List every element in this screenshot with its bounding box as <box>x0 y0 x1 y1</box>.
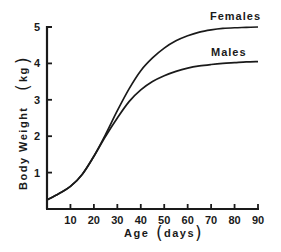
body-weight-chart: 102030405060708090 12345 Females Males A… <box>0 0 281 252</box>
males-label: Males <box>211 46 247 58</box>
x-tick-label: 40 <box>135 214 147 226</box>
x-tick-label: 30 <box>111 214 123 226</box>
y-tick-label: 2 <box>34 130 40 142</box>
x-axis-unit: days <box>164 227 195 239</box>
females-label: Females <box>210 10 261 22</box>
y-tick-label: 5 <box>34 21 40 33</box>
y-tick-label: 1 <box>34 167 40 179</box>
x-axis-ticks: 102030405060708090 <box>64 204 264 226</box>
y-close-paren: ) <box>13 57 33 64</box>
y-axis-label: Body Weight <box>17 106 29 190</box>
x-tick-label: 60 <box>182 214 194 226</box>
x-tick-label: 70 <box>205 214 217 226</box>
x-axis-label: Age <box>124 227 149 239</box>
males-curve <box>47 62 258 200</box>
x-open-paren: ( <box>156 223 163 243</box>
y-tick-label: 3 <box>34 94 40 106</box>
y-axis-title: Body Weight ( kg ) <box>13 57 33 190</box>
y-axis-ticks: 12345 <box>34 21 52 179</box>
y-tick-label: 4 <box>34 57 41 69</box>
x-tick-label: 80 <box>228 214 240 226</box>
x-tick-label: 20 <box>88 214 100 226</box>
x-tick-label: 10 <box>64 214 76 226</box>
x-close-paren: ) <box>195 223 202 243</box>
x-tick-label: 90 <box>252 214 264 226</box>
y-axis-unit: kg <box>17 66 29 82</box>
y-open-paren: ( <box>13 84 33 91</box>
